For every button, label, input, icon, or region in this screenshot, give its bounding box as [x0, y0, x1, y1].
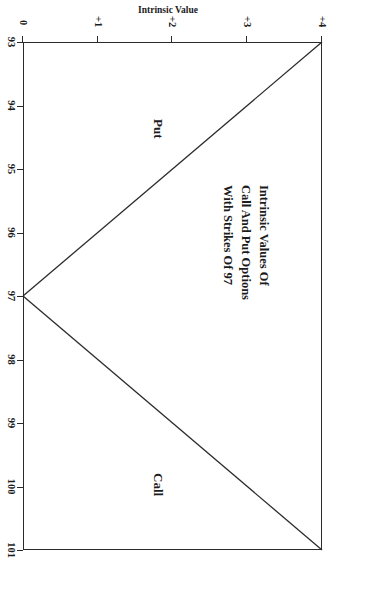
call-payoff-line [23, 296, 322, 550]
x-tick-99 [17, 423, 23, 424]
put-payoff-line [23, 42, 322, 296]
y-tick-label-4: +4 [317, 16, 328, 27]
x-tick-label-98: 98 [6, 354, 17, 365]
y-tick-2 [171, 36, 172, 42]
y-axis-title: Intrinsic Value [138, 5, 198, 15]
x-tick-label-101: 101 [6, 542, 17, 558]
x-tick-label-100: 100 [6, 479, 17, 495]
y-tick-0 [22, 36, 23, 42]
y-tick-label-2: +2 [167, 16, 178, 27]
x-tick-96 [17, 233, 23, 234]
x-tick-label-97: 97 [6, 291, 17, 302]
x-tick-label-95: 95 [6, 164, 17, 175]
x-tick-98 [17, 360, 23, 361]
y-tick-1 [97, 36, 98, 42]
x-tick-95 [17, 169, 23, 170]
y-tick-label-3: +3 [242, 16, 253, 27]
x-tick-label-94: 94 [6, 100, 17, 111]
x-tick-label-93: 93 [6, 37, 17, 48]
x-tick-94 [17, 106, 23, 107]
series-label-put: Put [150, 119, 166, 139]
x-tick-101 [17, 550, 23, 551]
x-tick-label-99: 99 [6, 418, 17, 429]
y-tick-4 [321, 36, 322, 42]
x-tick-100 [17, 487, 23, 488]
chart-title-line-2: Call And Put Options [237, 185, 255, 300]
y-tick-label-1: +1 [92, 16, 103, 27]
x-tick-label-96: 96 [6, 227, 17, 238]
plot-series-area [23, 42, 322, 550]
chart-title-line-1: Intrinsic Values Of [254, 185, 272, 300]
chart-title-line-3: With Strikes Of 97 [219, 185, 237, 300]
x-tick-93 [17, 42, 23, 43]
y-tick-label-0: 0 [18, 20, 29, 25]
chart-title: Intrinsic Values Of Call And Put Options… [219, 185, 272, 300]
series-label-call: Call [150, 473, 166, 496]
figure-canvas: 93 94 95 96 97 98 99 100 101 0 +1 +2 +3 … [0, 0, 371, 615]
y-tick-3 [246, 36, 247, 42]
x-tick-97 [17, 296, 23, 297]
